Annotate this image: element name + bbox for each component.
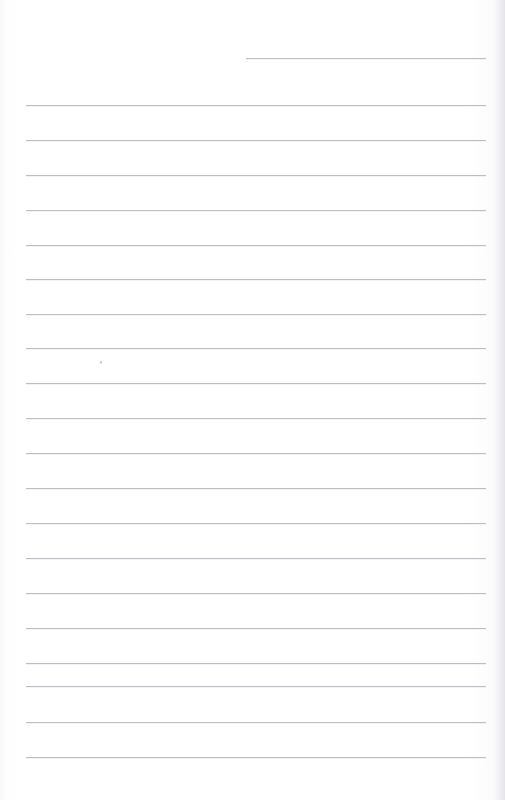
rule-line	[26, 628, 486, 629]
rule-line	[26, 140, 486, 141]
rule-line	[26, 686, 486, 687]
rule-line	[26, 418, 486, 419]
rule-line	[26, 175, 486, 176]
rule-line	[26, 383, 486, 384]
rule-line	[26, 523, 486, 524]
date-rule-line	[246, 58, 486, 59]
rule-line	[26, 593, 486, 594]
rule-line	[26, 314, 486, 315]
rule-line	[26, 279, 486, 280]
paper-surface	[0, 0, 505, 800]
page-edge-right-shadow	[494, 0, 505, 800]
rule-line	[26, 488, 486, 489]
rule-line	[26, 663, 486, 664]
rule-line	[26, 453, 486, 454]
rule-line	[26, 245, 486, 246]
page-edge-left-shadow	[0, 0, 6, 800]
scan-speck	[100, 361, 102, 364]
rule-line	[26, 757, 486, 758]
rule-line	[26, 558, 486, 559]
notepad-page	[0, 0, 505, 800]
rule-line	[26, 105, 486, 106]
rule-line	[26, 210, 486, 211]
rule-line	[26, 348, 486, 349]
rule-line	[26, 722, 486, 723]
